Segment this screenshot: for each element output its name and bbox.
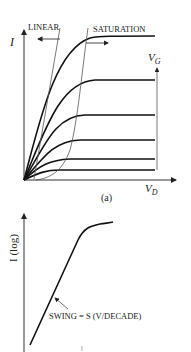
figure-caption: (a) [101,192,112,204]
region-saturation-label: SATURATION [93,24,145,34]
figure-a: I LINEAR SATURATION VG VD (a) [9,22,176,204]
linear-boundary [34,28,60,179]
figure-b: I (log) SWING = S (V/DECADE) [7,214,142,352]
x-axis-label: VD [145,182,158,197]
swing-annotation: SWING = S (V/DECADE) [49,311,142,321]
output-curves [24,36,155,180]
log-y-axis-label: I (log) [7,234,20,262]
vg-label: VG [148,51,161,66]
mosfet-characteristics-diagram: I LINEAR SATURATION VG VD (a) I (log) SW… [0,0,191,352]
y-axis-label: I [9,35,15,49]
swing-pointer [55,298,68,309]
region-linear-label: LINEAR [28,22,59,32]
subthreshold-curve [30,222,113,345]
